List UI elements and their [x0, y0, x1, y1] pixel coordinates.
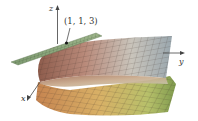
tangency-point-marker [65, 41, 68, 44]
x-axis-label: x [21, 94, 26, 103]
y-axis-arrowhead-icon [180, 51, 185, 55]
tangency-point-label: (1, 1, 3) [64, 16, 98, 26]
z-axis-label: z [48, 4, 54, 13]
y-axis-label: y [178, 57, 184, 66]
upper-surface-sheet [38, 36, 172, 87]
surface-tangent-plane-diagram: z y x (1, 1, 3) [0, 0, 198, 121]
z-axis: z [48, 4, 60, 44]
z-axis-arrowhead-icon [56, 5, 60, 10]
